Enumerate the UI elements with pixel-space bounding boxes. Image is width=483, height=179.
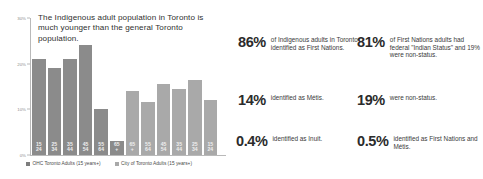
legend-swatch-icon	[115, 162, 119, 166]
stat-description: identified as Inuit.	[272, 134, 322, 143]
y-axis-tick-mark	[27, 63, 30, 64]
bar-ohc-55-64[interactable]: 5564	[94, 109, 108, 155]
stat-row: 0.4% identified as Inuit.	[236, 134, 356, 149]
stat-description: identified as First Nations and Métis.	[393, 134, 483, 150]
bar-age-label: 3544	[63, 142, 77, 153]
bar-age-label: 3544	[172, 142, 186, 153]
y-axis-tick-label: 10%	[0, 107, 30, 112]
y-axis-tick-mark	[27, 155, 30, 156]
bar-ohc-65-+[interactable]: 65+	[110, 141, 124, 155]
bar-city-35-44[interactable]: 3544	[172, 89, 186, 155]
stat-row: 0.5% identified as First Nations and Mét…	[357, 134, 483, 150]
y-axis-tick-mark	[27, 109, 30, 110]
y-axis-tick-label: 30%	[0, 16, 30, 21]
bar-age-label: 1524	[204, 142, 218, 153]
bar-age-label: 4554	[79, 142, 93, 153]
legend-label: City of Toronto Adults (15 years+)	[121, 161, 192, 166]
bar-city-65-+[interactable]: 65+	[126, 91, 140, 155]
bar-age-label: 65+	[126, 142, 140, 153]
bar-age-label: 5564	[141, 142, 155, 153]
stat-description: were non-status.	[390, 93, 437, 102]
bar-age-label: 65+	[110, 142, 124, 153]
bar-age-label: 5564	[94, 142, 108, 153]
stat-description: of Indigenous adults in Toronto identifi…	[271, 35, 358, 51]
legend-swatch-icon	[26, 162, 30, 166]
stat-row: 86% of Indigenous adults in Toronto iden…	[238, 35, 358, 51]
stat-column-indigenous-identity: 86% of Indigenous adults in Toronto iden…	[236, 0, 357, 179]
bar-ohc-35-44[interactable]: 3544	[63, 59, 77, 155]
stat-value: 19%	[357, 93, 385, 108]
stat-value: 86%	[238, 35, 266, 50]
chart-legend: OHC Toronto Adults (15 years+)City of To…	[26, 161, 192, 166]
legend-label: OHC Toronto Adults (15 years+)	[33, 161, 101, 166]
y-axis-tick-mark	[27, 18, 30, 19]
y-axis-tick-label: 0%	[0, 153, 30, 158]
bar-city-45-54[interactable]: 4554	[157, 84, 171, 155]
stat-value: 0.5%	[357, 134, 388, 149]
stat-column-status: 81% of First Nations adults had federal …	[357, 0, 478, 179]
bar-ohc-25-34[interactable]: 2534	[48, 68, 62, 155]
bar-ohc-15-24[interactable]: 1524	[32, 59, 46, 155]
chart-panel: The Indigenous adult population in Toron…	[0, 0, 232, 179]
stat-value: 81%	[357, 35, 385, 50]
bar-group: 1524253435444554556465+65+55644554354425…	[31, 18, 226, 155]
stat-value: 0.4%	[236, 134, 267, 149]
bar-age-label: 1524	[32, 142, 46, 153]
bar-age-label: 4554	[157, 142, 171, 153]
stat-row: 19% were non-status.	[357, 93, 483, 108]
bar-age-label: 2534	[48, 142, 62, 153]
bar-city-55-64[interactable]: 5564	[141, 102, 155, 155]
y-axis-tick-label: 20%	[0, 61, 30, 66]
legend-item[interactable]: OHC Toronto Adults (15 years+)	[26, 161, 101, 166]
stat-description: identified as Métis.	[271, 93, 324, 102]
legend-item[interactable]: City of Toronto Adults (15 years+)	[115, 161, 192, 166]
bar-city-15-24[interactable]: 1524	[204, 100, 218, 155]
x-axis-line	[30, 155, 226, 156]
stat-lead: of First Nations adults	[390, 36, 452, 43]
stat-row: 81% of First Nations adults had federal …	[357, 35, 483, 59]
bar-city-25-34[interactable]: 2534	[188, 80, 202, 155]
bar-ohc-45-54[interactable]: 4554	[79, 45, 93, 155]
stat-value: 14%	[238, 93, 266, 108]
stat-row: 14% identified as Métis.	[238, 93, 358, 108]
stat-description: of First Nations adults had federal "Ind…	[390, 35, 483, 59]
statistics-panel: 86% of Indigenous adults in Toronto iden…	[236, 0, 478, 179]
bar-age-label: 2534	[188, 142, 202, 153]
